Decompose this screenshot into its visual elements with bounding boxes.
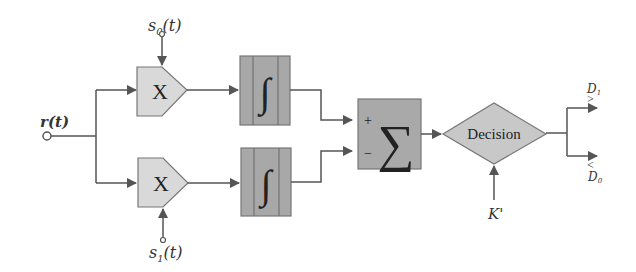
sigma-icon: ∑ bbox=[377, 115, 414, 173]
correlation-receiver-diagram: r(t) s0(t) s1(t) X X ∫ bbox=[0, 0, 636, 272]
threshold-label: K' bbox=[487, 205, 503, 223]
multiplier-bottom: X bbox=[138, 158, 239, 207]
multiply-icon: X bbox=[152, 79, 168, 104]
input-label: r(t) bbox=[40, 113, 69, 131]
multiply-icon: X bbox=[153, 171, 169, 196]
minus-sign: − bbox=[364, 146, 372, 161]
multiplier-top: X bbox=[137, 67, 238, 116]
integrator-bottom: ∫ bbox=[241, 148, 352, 216]
outputs: D1 > < D0 bbox=[546, 82, 603, 185]
output-d1: D1 > bbox=[586, 82, 601, 106]
greater-than-icon: > bbox=[587, 92, 594, 106]
output-d0: < D0 bbox=[587, 158, 603, 185]
s1-terminal-icon bbox=[161, 238, 166, 243]
decision-block: Decision K' bbox=[443, 103, 546, 223]
reference-s1: s1(t) bbox=[149, 209, 183, 264]
input-terminal-icon bbox=[43, 132, 51, 140]
svg-text:D0: D0 bbox=[587, 170, 603, 185]
s1-label: s1(t) bbox=[149, 243, 183, 264]
input-r-t: r(t) bbox=[40, 90, 136, 183]
decision-label: Decision bbox=[467, 126, 521, 142]
integrator-top: ∫ bbox=[240, 56, 352, 125]
summer: + − ∑ bbox=[358, 99, 441, 173]
plus-sign: + bbox=[364, 113, 372, 128]
s0-terminal-icon bbox=[160, 32, 165, 37]
reference-s0: s0(t) bbox=[148, 16, 182, 65]
